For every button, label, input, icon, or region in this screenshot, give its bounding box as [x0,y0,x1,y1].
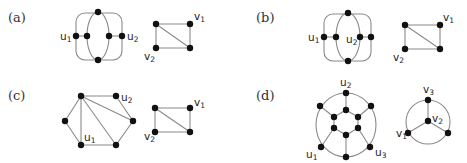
vertex [331,125,337,131]
vertex-u2 [343,90,349,96]
edge [321,128,334,147]
graph-figure: (a) u1 u2 v1 v2 [0,0,467,163]
label-u1: u1 [60,30,72,44]
vertex [402,22,408,28]
panel-c-right-graph: v1 v2 [144,96,205,144]
panel-b-right-graph: v1 v2 [393,11,454,65]
vertex [355,114,361,120]
panel-b-left-graph: u1 u2 [308,10,374,64]
vertex-v1 [187,21,193,27]
vertex-u3 [367,144,373,150]
label-v2: v2 [144,50,155,64]
vertex-u1 [321,34,327,40]
vertex [153,21,159,27]
label-v2: v2 [432,112,443,126]
label-u2: u2 [346,33,358,47]
edge [156,24,190,48]
vertex [95,9,101,15]
edge [408,121,428,133]
vertex-v2 [425,118,431,124]
vertex [343,132,349,138]
edge [358,128,370,147]
label-v1: v1 [194,96,205,110]
inner-hexagon-cycle [334,110,358,135]
vertex [355,125,361,131]
label-v1: v1 [194,10,205,24]
edge [405,25,440,49]
vertex-v1 [187,105,193,111]
vertex [343,154,349,160]
vertex [84,33,90,39]
vertex [130,118,136,124]
panel-a-right-graph: v1 v2 [144,10,205,64]
vertex [333,34,339,40]
label-v1: v1 [396,127,407,141]
vertex [187,45,193,51]
vertex [317,103,323,109]
vertex-u2 [119,33,125,39]
label-u2: u2 [340,76,352,90]
vertex [331,114,337,120]
panel-a-left-graph: u1 u2 [60,9,139,63]
vertex [95,57,101,63]
panel-d-right-graph: v1 v2 v3 [396,83,451,144]
label-u2: u2 [121,91,133,105]
vertex-u1 [318,144,324,150]
panel-label-c: (c) [8,88,25,103]
vertex [345,10,351,16]
panel-label-a: (a) [8,10,26,25]
panel-d-left-graph: u1 u2 u3 [306,76,387,162]
vertex [113,142,119,148]
panel-a: (a) u1 u2 v1 v2 [8,9,205,64]
label-u1: u1 [308,31,320,45]
panel-label-b: (b) [256,10,274,25]
panel-c: (c) u1 u2 v1 [8,88,205,148]
vertex [62,118,68,124]
inner-ellipse-cycle [87,12,109,60]
vertex [152,105,158,111]
vertex-v2 [153,45,159,51]
label-v3: v3 [423,83,434,97]
vertex [437,46,443,52]
vertex-v2 [402,46,408,52]
label-v2: v2 [393,51,404,65]
vertex [106,33,112,39]
panel-d: (d) u1 u2 [256,76,451,162]
panel-b: (b) u1 u2 v1 v2 [256,10,454,65]
label-u1: u1 [84,131,96,145]
vertex [445,130,451,136]
label-u3: u3 [375,146,387,160]
vertex-u2 [113,93,119,99]
panel-label-d: (d) [256,88,274,103]
label-u1: u1 [306,148,318,162]
vertex [368,34,374,40]
vertex-u1 [73,33,79,39]
label-v1: v1 [443,11,454,25]
vertex [357,34,363,40]
vertex [187,129,193,135]
panel-c-left-graph: u1 u2 [62,91,136,148]
vertex [368,103,374,109]
label-u2: u2 [127,30,139,44]
vertex-v3 [425,97,431,103]
edge [155,108,190,132]
vertex [78,93,84,99]
vertex [345,58,351,64]
vertex [343,107,349,113]
